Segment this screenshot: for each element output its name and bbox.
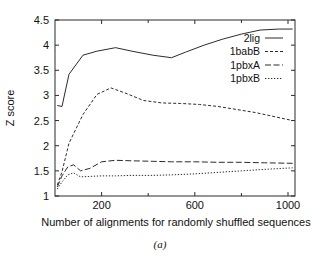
chart-legend: 2lig1babB1pbxA1pbxB [230,32,283,85]
line-chart: 11.522.533.544.5 2006001000 Z score Numb… [0,0,320,262]
y-tick-label: 1.5 [34,165,49,177]
y-axis-label: Z score [4,90,16,127]
series-line-1pbxA [57,160,292,187]
x-tick-label: 1000 [276,199,300,211]
x-tick-label: 200 [92,199,110,211]
legend-label-1pbxB: 1pbxB [230,72,260,84]
legend-label-2lig: 2lig [244,32,261,44]
x-axis-tick-labels: 2006001000 [92,199,300,211]
y-tick-label: 3.5 [34,64,49,76]
y-tick-label: 3 [43,89,49,101]
y-tick-label: 1 [43,190,49,202]
figure-caption: (a) [154,238,167,251]
figure-container: 11.522.533.544.5 2006001000 Z score Numb… [0,0,320,262]
y-tick-label: 2 [43,140,49,152]
y-tick-label: 2.5 [34,115,49,127]
x-axis-ticks [102,20,288,196]
y-tick-label: 4.5 [34,14,49,26]
y-axis-tick-labels: 11.522.533.544.5 [34,14,49,202]
legend-label-1pbxA: 1pbxA [230,59,260,71]
series-line-1babB [57,88,292,185]
series-line-1pbxB [57,168,292,189]
legend-label-1babB: 1babB [230,45,260,57]
x-axis-label: Number of alignments for randomly shuffl… [41,216,311,228]
y-tick-label: 4 [43,39,49,51]
x-tick-label: 600 [186,199,204,211]
